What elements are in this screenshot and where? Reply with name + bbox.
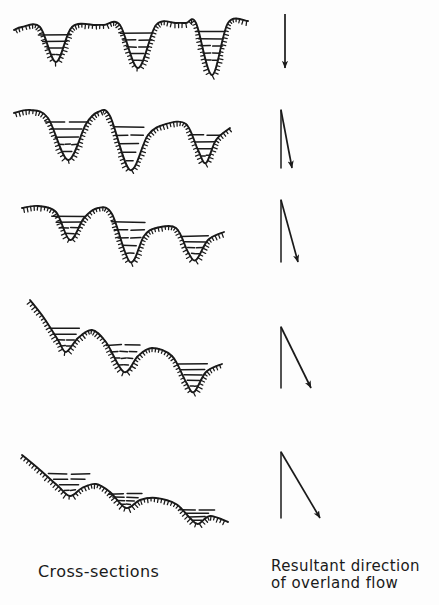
fill-dash bbox=[127, 497, 138, 498]
hachure-tick bbox=[29, 110, 30, 114]
fill-dash bbox=[121, 358, 126, 359]
hachure-tick bbox=[68, 160, 69, 163]
hachure-tick bbox=[147, 498, 148, 502]
figure-background bbox=[0, 0, 439, 605]
hachure-tick bbox=[22, 27, 23, 30]
hachure-tick bbox=[89, 24, 90, 28]
hachure-tick bbox=[155, 348, 156, 351]
hachure-tick bbox=[31, 206, 32, 211]
hachure-tick bbox=[246, 21, 247, 26]
fill-dash bbox=[110, 351, 118, 352]
hachure-tick bbox=[186, 23, 187, 27]
fill-dash bbox=[131, 237, 141, 238]
fill-dash bbox=[122, 245, 136, 246]
hachure-tick bbox=[220, 52, 223, 53]
caption-overland-flow-line2: of overland flow bbox=[271, 574, 398, 592]
fill-dash bbox=[126, 253, 130, 254]
hachure-tick bbox=[221, 48, 224, 49]
fill-dash bbox=[120, 351, 128, 352]
caption-overland-flow: Resultant directionof overland flow bbox=[271, 558, 420, 592]
hachure-tick bbox=[161, 22, 162, 25]
fill-dash bbox=[109, 494, 124, 495]
hachure-tick bbox=[162, 227, 163, 231]
fill-dash bbox=[56, 54, 60, 55]
cross-section-figure bbox=[0, 0, 439, 605]
fill-dash bbox=[70, 490, 75, 491]
caption-cross-sections: Cross-sections bbox=[38, 562, 159, 581]
hachure-tick bbox=[173, 122, 174, 127]
hachure-tick bbox=[161, 499, 162, 503]
hachure-tick bbox=[91, 330, 92, 334]
hachure-tick bbox=[158, 498, 159, 502]
hachure-tick bbox=[44, 207, 45, 210]
hachure-tick bbox=[144, 499, 145, 502]
fill-dash bbox=[112, 222, 145, 223]
fill-dash bbox=[107, 345, 122, 346]
hachure-tick bbox=[78, 24, 79, 28]
hachure-tick bbox=[201, 55, 205, 56]
hachure-tick bbox=[91, 484, 92, 488]
caption-overland-flow-line1: Resultant direction bbox=[271, 557, 420, 575]
hachure-tick bbox=[180, 122, 181, 126]
hachure-tick bbox=[64, 352, 65, 356]
hachure-tick bbox=[99, 208, 100, 211]
hachure-tick bbox=[219, 55, 223, 56]
fill-dash bbox=[48, 474, 66, 475]
hachure-tick bbox=[217, 66, 220, 67]
fill-dash bbox=[131, 230, 144, 231]
fill-dash bbox=[181, 236, 208, 237]
hachure-tick bbox=[196, 34, 200, 35]
hachure-tick bbox=[22, 111, 23, 115]
fill-dash bbox=[126, 504, 130, 505]
hachure-tick bbox=[155, 228, 156, 231]
hachure-tick bbox=[200, 52, 203, 53]
hachure-tick bbox=[167, 22, 168, 26]
hachure-tick bbox=[85, 24, 86, 29]
hachure-tick bbox=[118, 149, 121, 150]
fill-dash bbox=[128, 358, 133, 359]
fill-dash bbox=[113, 127, 144, 128]
